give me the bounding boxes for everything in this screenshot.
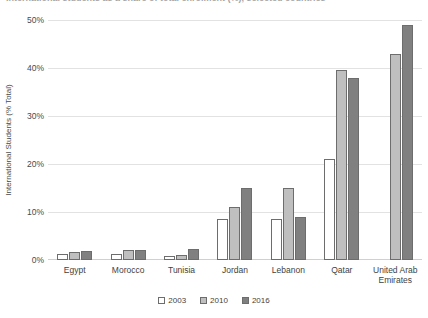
y-axis-label: International Students (% Total) [2, 20, 14, 260]
y-axis-tick-label: 50% [27, 15, 44, 25]
x-axis-category-label: United Arab Emirates [369, 263, 422, 289]
y-axis-tick-label: 0% [32, 255, 44, 265]
bar-group [155, 20, 208, 260]
bar-group [262, 20, 315, 260]
x-axis-category-label: Qatar [315, 263, 368, 289]
bar-group [369, 20, 422, 260]
bar[interactable] [336, 70, 347, 260]
chart-title-text: International students as a share of tot… [6, 0, 326, 3]
bar[interactable] [348, 78, 359, 260]
plot-area [48, 20, 422, 260]
bar[interactable] [135, 250, 146, 260]
bar-group [48, 20, 101, 260]
bar[interactable] [164, 256, 175, 260]
x-axis-category-labels: EgyptMoroccoTunisiaJordanLebanonQatarUni… [48, 263, 422, 289]
bar-group-bars [48, 20, 101, 260]
bar[interactable] [390, 54, 401, 260]
y-axis-tick-label: 40% [27, 63, 44, 73]
chart-title-cutoff: International students as a share of tot… [0, 0, 428, 11]
x-axis-category-label: Lebanon [262, 263, 315, 289]
bar-group-bars [208, 20, 261, 260]
bar[interactable] [111, 254, 122, 260]
bar-group-bars [315, 20, 368, 260]
chart-legend: 200320102016 [0, 296, 428, 305]
y-axis-tick-label: 20% [27, 159, 44, 169]
bar[interactable] [188, 249, 199, 260]
bar[interactable] [217, 219, 228, 260]
bar[interactable] [241, 188, 252, 260]
bar[interactable] [57, 254, 68, 260]
y-axis-tick-label: 10% [27, 207, 44, 217]
bar-chart: International students as a share of tot… [0, 0, 428, 318]
legend-label: 2010 [210, 296, 228, 305]
legend-label: 2003 [168, 296, 186, 305]
bar[interactable] [402, 25, 413, 260]
legend-swatch-icon [158, 297, 165, 304]
legend-swatch-icon [200, 297, 207, 304]
bar[interactable] [283, 188, 294, 260]
legend-swatch-icon [242, 297, 249, 304]
legend-label: 2016 [252, 296, 270, 305]
bar[interactable] [271, 219, 282, 260]
legend-item[interactable]: 2010 [200, 296, 228, 305]
bar[interactable] [123, 250, 134, 260]
bar[interactable] [81, 251, 92, 260]
bar-group-bars [262, 20, 315, 260]
y-axis-tick-label: 30% [27, 111, 44, 121]
y-axis-label-text: International Students (% Total) [4, 84, 13, 195]
bar-group-bars [101, 20, 154, 260]
legend-item[interactable]: 2016 [242, 296, 270, 305]
y-axis-ticks: 0%10%20%30%40%50% [14, 20, 44, 260]
bar[interactable] [176, 255, 187, 260]
bar[interactable] [69, 252, 80, 260]
bar-groups [48, 20, 422, 260]
bar[interactable] [229, 207, 240, 260]
bar-group-bars [369, 20, 422, 260]
x-axis-category-label: Tunisia [155, 263, 208, 289]
x-axis-category-label: Morocco [101, 263, 154, 289]
bar-group [315, 20, 368, 260]
legend-item[interactable]: 2003 [158, 296, 186, 305]
x-axis-category-label: Jordan [208, 263, 261, 289]
bar-group [101, 20, 154, 260]
bar[interactable] [324, 159, 335, 260]
bar[interactable] [295, 217, 306, 260]
bar-group [208, 20, 261, 260]
bar-group-bars [155, 20, 208, 260]
x-axis-category-label: Egypt [48, 263, 101, 289]
